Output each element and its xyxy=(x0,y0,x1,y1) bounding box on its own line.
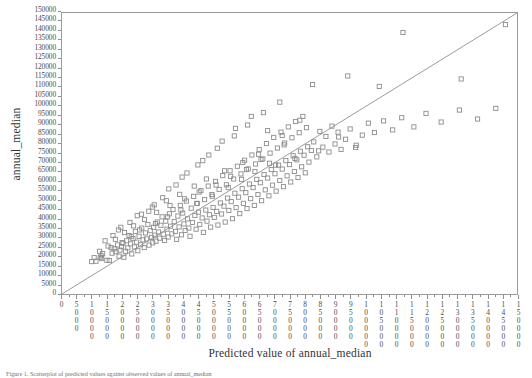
scatter-point xyxy=(286,125,290,129)
scatter-point xyxy=(256,192,260,196)
x-minor-tick-mark xyxy=(297,295,298,297)
x-tick-mark xyxy=(350,295,351,299)
y-tick-label: 50000 xyxy=(38,195,56,203)
scatter-point xyxy=(133,229,137,233)
scatter-point xyxy=(139,212,143,216)
x-tick-label: 100000 xyxy=(362,301,371,350)
scatter-point xyxy=(234,206,238,210)
scatter-point xyxy=(377,84,381,88)
y-tick-label: 135000 xyxy=(34,34,56,42)
y-tick-label: 40000 xyxy=(38,214,56,222)
scatter-point xyxy=(164,219,168,223)
scatter-point xyxy=(130,252,134,256)
scatter-point xyxy=(178,192,182,196)
scatter-point xyxy=(239,172,243,176)
x-tick-mark xyxy=(290,295,291,299)
scatter-point xyxy=(336,130,340,134)
scatter-point xyxy=(200,216,204,220)
scatter-point xyxy=(268,151,272,155)
scatter-point xyxy=(202,197,206,201)
scatter-point xyxy=(204,208,208,212)
x-minor-tick-mark xyxy=(480,295,481,297)
scatter-point xyxy=(304,126,308,130)
x-tick-label: 45000 xyxy=(194,301,203,341)
scatter-point xyxy=(185,217,189,221)
scatter-point xyxy=(201,230,205,234)
x-minor-tick-mark xyxy=(343,295,344,297)
scatter-point xyxy=(185,171,189,175)
scatter-point xyxy=(250,153,254,157)
scatter-point xyxy=(261,111,265,115)
scatter-point xyxy=(249,197,253,201)
scatter-point xyxy=(307,160,311,164)
plot-area xyxy=(61,12,518,295)
scatter-point xyxy=(321,145,325,149)
scatter-point xyxy=(122,230,126,234)
x-tick-mark xyxy=(274,295,275,299)
x-tick-label: 135000 xyxy=(468,301,477,350)
y-tick-label: 80000 xyxy=(38,138,56,146)
scatter-point xyxy=(178,203,182,207)
scatter-point xyxy=(439,120,443,124)
scatter-point xyxy=(215,146,219,150)
x-minor-tick-mark xyxy=(404,295,405,297)
scatter-point xyxy=(188,234,192,238)
scatter-point xyxy=(296,175,300,179)
scatter-point xyxy=(273,163,277,167)
x-minor-tick-mark xyxy=(69,295,70,297)
scatter-point xyxy=(263,188,267,192)
scatter-point xyxy=(348,127,352,131)
x-tick-label: 60000 xyxy=(240,301,249,341)
scatter-point xyxy=(155,210,159,214)
scatter-point xyxy=(274,189,278,193)
scatter-point xyxy=(275,146,279,150)
x-tick-label: 95000 xyxy=(346,301,355,341)
scatter-point xyxy=(241,201,245,205)
scatter-point xyxy=(285,174,289,178)
x-tick-label: 15000 xyxy=(103,301,112,341)
scatter-point xyxy=(222,169,226,173)
scatter-point xyxy=(146,222,150,226)
x-tick-label: 110000 xyxy=(392,301,401,350)
y-tick-label: 105000 xyxy=(34,91,56,99)
scatter-point xyxy=(324,134,328,138)
scatter-point xyxy=(475,117,479,121)
x-minor-tick-mark xyxy=(465,295,466,297)
scatter-point xyxy=(303,171,307,175)
x-minor-tick-mark xyxy=(434,295,435,297)
x-tick-mark xyxy=(259,295,260,299)
y-tick-label: 140000 xyxy=(34,25,56,33)
y-tick-label: 0 xyxy=(52,289,56,297)
scatter-point xyxy=(293,119,297,123)
scatter-point xyxy=(189,206,193,210)
x-tick-label: 35000 xyxy=(164,301,173,341)
scatter-point xyxy=(269,168,273,172)
figure-caption: Figure 1. Scatterplot of predicted value… xyxy=(6,370,526,378)
scatter-point xyxy=(233,126,237,130)
scatter-point xyxy=(232,134,236,138)
x-minor-tick-mark xyxy=(358,295,359,297)
y-tick-label: 35000 xyxy=(38,223,56,231)
scatter-point xyxy=(147,209,151,213)
x-tick-label: 10000 xyxy=(87,301,96,341)
scatter-point xyxy=(339,147,343,151)
scatter-point xyxy=(209,225,213,229)
scatter-point xyxy=(160,215,164,219)
scatter-point xyxy=(180,175,184,179)
y-tick-label: 125000 xyxy=(34,53,56,61)
x-tick-mark xyxy=(122,295,123,299)
x-tick-label: 105000 xyxy=(377,301,386,350)
scatter-point xyxy=(122,255,126,259)
scatter-point xyxy=(204,177,208,181)
scatter-point xyxy=(360,133,364,137)
x-tick-label: 30000 xyxy=(148,301,157,341)
scatter-point xyxy=(381,119,385,123)
scatter-point xyxy=(256,152,260,156)
y-tick-label: 145000 xyxy=(34,15,56,23)
scatter-point xyxy=(192,184,196,188)
y-tick-label: 100000 xyxy=(34,100,56,108)
scatter-point xyxy=(292,169,296,173)
x-tick-mark xyxy=(457,295,458,299)
scatter-point xyxy=(344,137,348,141)
y-tick-label: 45000 xyxy=(38,204,56,212)
